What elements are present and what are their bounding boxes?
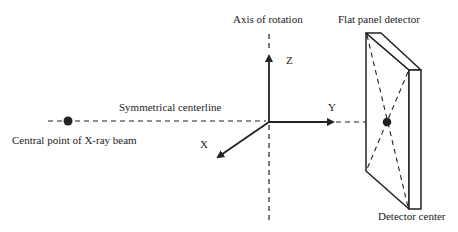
label-axis-y: Y	[328, 102, 336, 113]
label-axis-x: X	[200, 139, 208, 150]
label-central-point: Central point of X-ray beam	[12, 135, 137, 146]
label-detector-center: Detector center	[378, 211, 445, 222]
x-axis-arrow	[218, 122, 269, 157]
symmetrical-centerline	[48, 121, 386, 122]
diagram-canvas	[0, 0, 458, 232]
flat-panel-detector	[366, 33, 421, 209]
label-axis-z: Z	[286, 55, 293, 66]
detector-center-point	[383, 118, 392, 127]
label-axis-of-rotation: Axis of rotation	[233, 14, 303, 25]
label-flat-panel-detector: Flat panel detector	[338, 14, 420, 25]
label-symmetrical-centerline: Symmetrical centerline	[119, 102, 221, 113]
xray-source-point	[64, 117, 73, 126]
